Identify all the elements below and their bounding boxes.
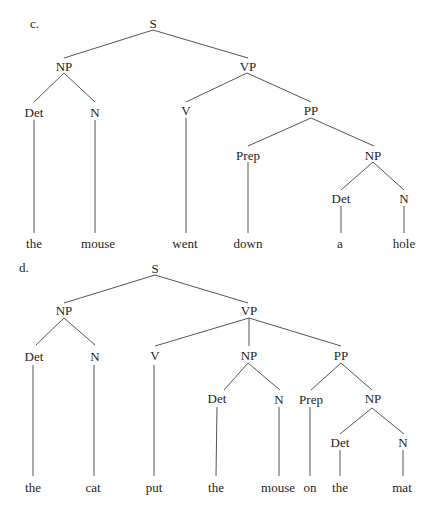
example-label-d: d. bbox=[19, 260, 29, 276]
node-np: NP bbox=[241, 349, 258, 362]
node-n: N bbox=[90, 106, 99, 119]
node-s: S bbox=[151, 262, 158, 275]
leaf-word: mouse bbox=[81, 237, 115, 250]
node-n: N bbox=[398, 436, 407, 449]
leaf-word: the bbox=[208, 481, 224, 494]
node-det: Det bbox=[25, 106, 44, 119]
leaf-word: went bbox=[172, 237, 197, 250]
node-np: NP bbox=[365, 392, 382, 405]
leaf-word: put bbox=[146, 481, 163, 494]
node-det: Det bbox=[25, 350, 44, 363]
leaf-word: the bbox=[25, 481, 41, 494]
example-label-c: c. bbox=[30, 16, 39, 32]
node-det: Det bbox=[331, 436, 350, 449]
leaf-word: down bbox=[234, 237, 263, 250]
leaf-word: a bbox=[337, 237, 343, 250]
node-det: Det bbox=[208, 392, 227, 405]
leaf-word: the bbox=[332, 481, 348, 494]
leaf-word: the bbox=[26, 237, 42, 250]
leaf-word: cat bbox=[85, 481, 100, 494]
node-n: N bbox=[274, 393, 283, 406]
node-v: V bbox=[150, 349, 159, 362]
leaf-word: mat bbox=[392, 481, 412, 494]
leaf-word: mouse bbox=[261, 481, 295, 494]
leaf-word: hole bbox=[393, 237, 415, 250]
node-prep: Prep bbox=[236, 149, 260, 162]
node-prep: Prep bbox=[299, 393, 323, 406]
node-v: V bbox=[181, 104, 190, 117]
node-vp: VP bbox=[241, 304, 258, 317]
node-n: N bbox=[90, 350, 99, 363]
tree-lines bbox=[0, 0, 435, 510]
leaf-word: on bbox=[304, 481, 317, 494]
node-np: NP bbox=[365, 149, 382, 162]
node-np: NP bbox=[56, 304, 73, 317]
node-vp: VP bbox=[240, 60, 257, 73]
node-np: NP bbox=[56, 60, 73, 73]
node-s: S bbox=[149, 17, 156, 30]
node-n: N bbox=[399, 192, 408, 205]
node-det: Det bbox=[332, 192, 351, 205]
node-pp: PP bbox=[334, 349, 348, 362]
node-pp: PP bbox=[304, 104, 318, 117]
